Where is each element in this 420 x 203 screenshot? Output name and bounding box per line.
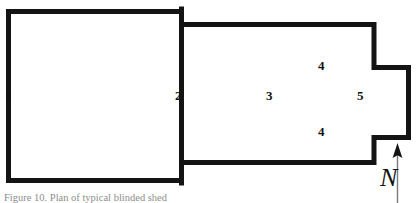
figure-caption: Figure 10. Plan of typical blinded shed (4, 191, 304, 203)
room-label-4-lower: 4 (318, 125, 325, 138)
room-label-2: 2 (175, 89, 182, 102)
figure-canvas: 1 2 3 4 4 5 N Figure 10. Plan of typical… (0, 0, 420, 203)
right-wing-wall (182, 25, 409, 163)
compass-north-label: N (380, 165, 397, 191)
room-label-3: 3 (266, 89, 273, 102)
room-label-4-upper: 4 (318, 59, 325, 72)
compass-rose: N (378, 142, 418, 203)
room-label-5: 5 (357, 89, 364, 102)
room-label-1: 1 (5, 89, 12, 102)
left-room-wall (9, 12, 182, 181)
